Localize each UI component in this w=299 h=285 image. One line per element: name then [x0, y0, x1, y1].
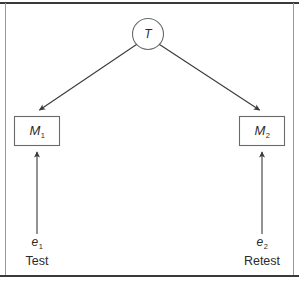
- manifest-node-M2-label-base: M: [254, 123, 265, 138]
- manifest-node-M1-label: M1: [17, 124, 57, 137]
- path-T-to-M2: [160, 45, 260, 111]
- error-node-e1-label: e1: [17, 236, 57, 248]
- occasion-label-retest: Retest: [232, 255, 292, 268]
- manifest-node-M1-label-base: M: [29, 123, 40, 138]
- error-node-e2-label-subscript: 2: [264, 242, 268, 251]
- error-node-e1-label-subscript: 1: [39, 242, 43, 251]
- latent-node-T-label: T: [138, 28, 158, 40]
- occasion-label-test: Test: [7, 255, 67, 268]
- error-node-e2-label: e2: [242, 236, 282, 248]
- manifest-node-M2-label: M2: [242, 124, 282, 137]
- manifest-node-M2-label-subscript: 2: [266, 131, 270, 140]
- path-diagram-figure: T M1 M2 e1 e2 Test Retest: [0, 0, 299, 285]
- path-T-to-M1: [40, 45, 137, 111]
- manifest-node-M1-label-subscript: 1: [41, 131, 45, 140]
- error-node-e1-label-base: e: [32, 235, 39, 249]
- error-node-e2-label-base: e: [257, 235, 264, 249]
